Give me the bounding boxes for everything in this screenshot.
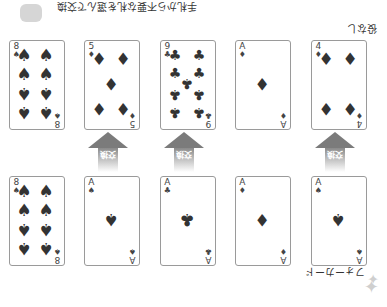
after-card-1: A♠ ♠ A♠	[311, 176, 367, 266]
before-card-3: 9♣ ♣ ♣ ♣ ♣ ♣ ♣ ♣ ♣ ♣ 9♣	[160, 40, 216, 130]
instruction-text: 手札から不要な札を選んで交換	[57, 0, 197, 15]
after-card-3: A♣ ♣ A♣	[160, 176, 216, 266]
before-card-2: A♦ ♦ A♦	[235, 40, 291, 130]
after-card-4: A♠ ♠ A♠	[84, 176, 140, 266]
exchange-arrow-3: 交換	[88, 132, 128, 172]
decoration-icon	[20, 4, 42, 22]
exchange-arrow-1: 交換	[315, 132, 355, 172]
before-card-1: 4♦ ♦ ♦ ♦ ♦ 4♦	[311, 40, 367, 130]
exchange-arrow-2: 交換	[164, 132, 204, 172]
before-hand-label: 役なし	[347, 22, 377, 37]
after-card-2: A♦ ♦ A♦	[235, 176, 291, 266]
after-card-5: 8♠ ♠ ♠ ♠ ♠ ♠ ♠ ♠ ♠ 8♠	[9, 176, 65, 266]
rotated-canvas: 手札から不要な札を選んで交換 役なし フォーカード ✦ ✦ 4♦ ♦ ♦ ♦ ♦…	[0, 0, 387, 307]
after-hand-label: フォーカード	[305, 265, 365, 280]
before-card-4: 5♦ ♦ ♦ ♦ ♦ ♦ 5♦	[84, 40, 140, 130]
before-card-5: 8♠ ♠ ♠ ♠ ♠ ♠ ♠ ♠ ♠ 8♠	[9, 40, 65, 130]
sparkle-icon: ✦	[364, 276, 379, 297]
